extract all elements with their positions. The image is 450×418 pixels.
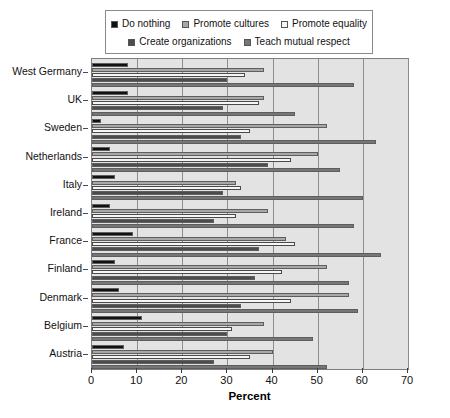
y-axis-label: Sweden xyxy=(44,122,82,133)
x-axis-tick-label: 0 xyxy=(88,374,94,386)
chart-root: Do nothing Promote cultures Promote equa… xyxy=(0,0,450,418)
y-axis-label: Austria xyxy=(49,348,82,359)
bar xyxy=(92,322,264,326)
bar xyxy=(92,68,264,72)
legend-item-promote-cultures: Promote cultures xyxy=(182,19,269,29)
y-axis-tick xyxy=(83,326,88,327)
x-axis-tick-label: 50 xyxy=(311,374,323,386)
bar xyxy=(92,247,259,251)
y-axis-tick xyxy=(83,72,88,73)
bar xyxy=(92,91,128,95)
bar xyxy=(92,106,223,110)
x-axis-title: Percent xyxy=(91,390,408,402)
bar xyxy=(92,304,241,308)
bar xyxy=(92,175,115,179)
y-axis-tick xyxy=(83,157,88,158)
bar xyxy=(92,124,327,128)
y-axis-label: Ireland xyxy=(50,207,82,218)
y-axis-label: West Germany xyxy=(12,66,82,77)
bar xyxy=(92,288,119,292)
legend-row-1: Do nothing Promote cultures Promote equa… xyxy=(112,15,366,33)
bar-group xyxy=(92,256,408,284)
legend-swatch-icon xyxy=(281,21,288,28)
y-axis-label: UK xyxy=(67,94,82,105)
grid-line xyxy=(408,59,409,369)
legend-label: Promote cultures xyxy=(193,19,269,29)
y-axis-tick xyxy=(83,298,88,299)
bar-group xyxy=(92,341,408,369)
bar xyxy=(92,327,232,331)
bar xyxy=(92,219,214,223)
x-axis-tick xyxy=(407,368,408,373)
y-axis-tick xyxy=(83,185,88,186)
bar xyxy=(92,78,227,82)
y-axis-tick xyxy=(83,354,88,355)
bar-group xyxy=(92,228,408,256)
bar-group xyxy=(92,313,408,341)
x-axis-tick-label: 40 xyxy=(265,374,277,386)
x-axis-tick xyxy=(317,368,318,373)
bar xyxy=(92,345,124,349)
y-axis-label: Belgium xyxy=(44,320,82,331)
bar xyxy=(92,129,250,133)
bar-group xyxy=(92,59,408,87)
legend-item-promote-equality: Promote equality xyxy=(281,19,367,29)
bar xyxy=(92,147,110,151)
legend-label: Teach mutual respect xyxy=(255,37,350,47)
x-axis-tick-label: 30 xyxy=(220,374,232,386)
legend-item-do-nothing: Do nothing xyxy=(111,19,170,29)
x-axis-tick xyxy=(181,368,182,373)
bar xyxy=(92,73,245,77)
bar xyxy=(92,214,236,218)
x-axis-tick-label: 10 xyxy=(130,374,142,386)
bar xyxy=(92,191,223,195)
bar xyxy=(92,152,318,156)
legend-swatch-icon xyxy=(111,21,118,28)
bar xyxy=(92,332,227,336)
bar xyxy=(92,119,101,123)
y-axis-label: Italy xyxy=(63,179,82,190)
x-axis-tick-label: 60 xyxy=(356,374,368,386)
bar xyxy=(92,316,142,320)
bar xyxy=(92,360,214,364)
x-axis-tick xyxy=(362,368,363,373)
x-axis-tick xyxy=(136,368,137,373)
bar xyxy=(92,181,236,185)
legend-label: Create organizations xyxy=(139,37,231,47)
bar xyxy=(92,96,264,100)
chart-legend: Do nothing Promote cultures Promote equa… xyxy=(105,10,373,54)
y-axis-label: France xyxy=(49,235,82,246)
x-axis-tick xyxy=(91,368,92,373)
bar xyxy=(92,232,133,236)
bar xyxy=(92,186,241,190)
y-axis-label: Finland xyxy=(48,263,82,274)
bar xyxy=(92,163,268,167)
bar xyxy=(92,242,295,246)
legend-row-2: Create organizations Teach mutual respec… xyxy=(112,33,366,51)
legend-swatch-icon xyxy=(182,21,189,28)
bar xyxy=(92,237,286,241)
bar xyxy=(92,204,110,208)
legend-item-teach-mutual-respect: Teach mutual respect xyxy=(244,37,350,47)
x-axis-tick-label: 20 xyxy=(175,374,187,386)
y-axis-tick xyxy=(83,241,88,242)
bar xyxy=(92,209,268,213)
x-axis-tick xyxy=(272,368,273,373)
bar-group xyxy=(92,200,408,228)
bar xyxy=(92,299,291,303)
bar-group xyxy=(92,115,408,143)
bar xyxy=(92,63,128,67)
legend-item-create-organizations: Create organizations xyxy=(128,37,231,47)
legend-label: Do nothing xyxy=(122,19,170,29)
bar xyxy=(92,270,282,274)
y-axis-tick xyxy=(83,128,88,129)
bar xyxy=(92,276,255,280)
bar xyxy=(92,158,291,162)
bar xyxy=(92,350,273,354)
y-axis-label: Netherlands xyxy=(25,151,82,162)
legend-label: Promote equality xyxy=(292,19,367,29)
bar xyxy=(92,293,349,297)
y-axis-tick xyxy=(83,213,88,214)
bar xyxy=(92,135,241,139)
y-axis-tick xyxy=(83,100,88,101)
